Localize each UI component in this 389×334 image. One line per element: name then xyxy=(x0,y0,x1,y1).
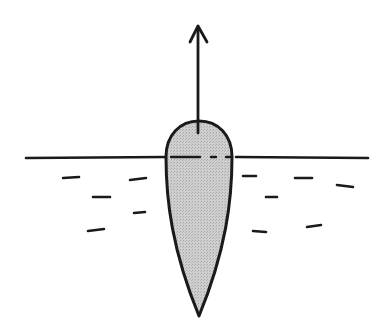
water-ripple-dash xyxy=(337,185,353,187)
water-ripple-dash xyxy=(253,231,266,232)
diagram-svg xyxy=(0,0,389,334)
waterline-left xyxy=(26,157,166,158)
waterline-right xyxy=(236,157,368,158)
water-ripple-dash xyxy=(88,229,104,231)
water-ripple-dash xyxy=(307,225,321,227)
buoyancy-diagram xyxy=(0,0,389,334)
water-ripple-dash xyxy=(134,212,145,213)
water-ripple-dash xyxy=(63,177,79,178)
floating-body xyxy=(166,121,232,316)
water-ripple-dash xyxy=(130,178,146,180)
upward-arrow-icon xyxy=(190,26,207,133)
